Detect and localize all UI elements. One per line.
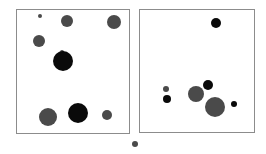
black-circle [211, 18, 221, 28]
gray-circle [33, 35, 45, 47]
black-circle [68, 103, 88, 123]
right-panel-frame [140, 10, 255, 133]
gray-circle [188, 86, 204, 102]
gray-circle [39, 108, 57, 126]
right-panel [140, 10, 255, 133]
black-circle [53, 51, 73, 71]
gray-circle [102, 110, 112, 120]
black-circle [163, 95, 171, 103]
black-circle [231, 101, 237, 107]
left-panel [17, 10, 130, 134]
gray-circle [38, 14, 42, 18]
gray-circle [163, 86, 169, 92]
gray-circle [205, 97, 225, 117]
bottom-marker-dot [132, 141, 138, 147]
diagram-canvas [0, 0, 266, 154]
gray-circle [61, 15, 73, 27]
black-circle [203, 80, 213, 90]
gray-circle [107, 15, 121, 29]
